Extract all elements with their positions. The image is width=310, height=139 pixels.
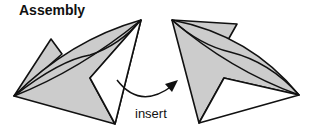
assembly-diagram: Assembly insert [0, 0, 310, 139]
left-piece [14, 20, 141, 124]
insert-label: insert [135, 106, 167, 121]
right-piece [172, 20, 299, 123]
